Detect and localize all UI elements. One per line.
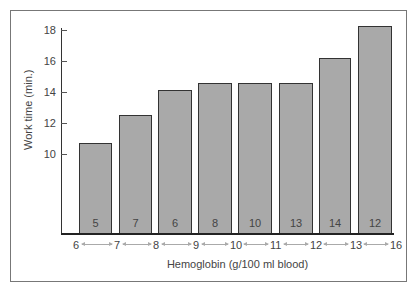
range-arrow — [123, 244, 151, 245]
y-tick-label: 16 — [32, 55, 56, 67]
y-axis — [61, 28, 62, 234]
bar: 7 — [119, 115, 152, 233]
y-tick-label: 12 — [32, 117, 56, 129]
y-axis-title: Work time (min.) — [22, 70, 34, 150]
bar: 8 — [198, 83, 232, 233]
bar: 12 — [358, 26, 392, 233]
range-arrow — [324, 244, 348, 245]
bar-label: 14 — [320, 217, 350, 229]
y-tick-label: 14 — [32, 86, 56, 98]
y-tick-10 — [61, 154, 67, 155]
x-tick-label: 9 — [193, 239, 199, 251]
range-arrow — [244, 244, 268, 245]
y-tick-label: 18 — [32, 24, 56, 36]
x-tick-label: 11 — [270, 239, 281, 251]
bar-label: 12 — [359, 217, 391, 229]
x-tick-label: 12 — [310, 239, 322, 251]
x-tick-label: 7 — [114, 239, 120, 251]
x-axis — [61, 233, 394, 235]
bar: 13 — [279, 83, 313, 233]
range-arrow — [364, 244, 388, 245]
range-arrow — [284, 244, 308, 245]
x-axis-title: Hemoglobin (g/100 ml blood) — [0, 258, 419, 270]
x-tick-label: 8 — [153, 239, 159, 251]
x-tick-label: 16 — [390, 239, 402, 251]
x-tick-label: 10 — [230, 239, 242, 251]
y-tick-18 — [61, 30, 67, 31]
bar-label: 10 — [239, 217, 271, 229]
bar-label: 5 — [80, 217, 111, 229]
range-arrow — [202, 244, 228, 245]
x-tick-label: 13 — [350, 239, 362, 251]
y-tick-16 — [61, 61, 67, 62]
bar-label: 7 — [120, 217, 151, 229]
bar: 10 — [238, 83, 272, 233]
bar: 14 — [319, 58, 351, 233]
bar: 5 — [79, 143, 112, 233]
range-arrow — [162, 244, 191, 245]
x-tick-label: 6 — [73, 239, 79, 251]
y-tick-12 — [61, 123, 67, 124]
y-tick-14 — [61, 92, 67, 93]
y-tick-label: 10 — [32, 148, 56, 160]
bar-label: 6 — [159, 217, 191, 229]
range-arrow — [82, 244, 112, 245]
bar-label: 13 — [280, 217, 312, 229]
bar: 6 — [158, 90, 192, 233]
bar-label: 8 — [199, 217, 231, 229]
